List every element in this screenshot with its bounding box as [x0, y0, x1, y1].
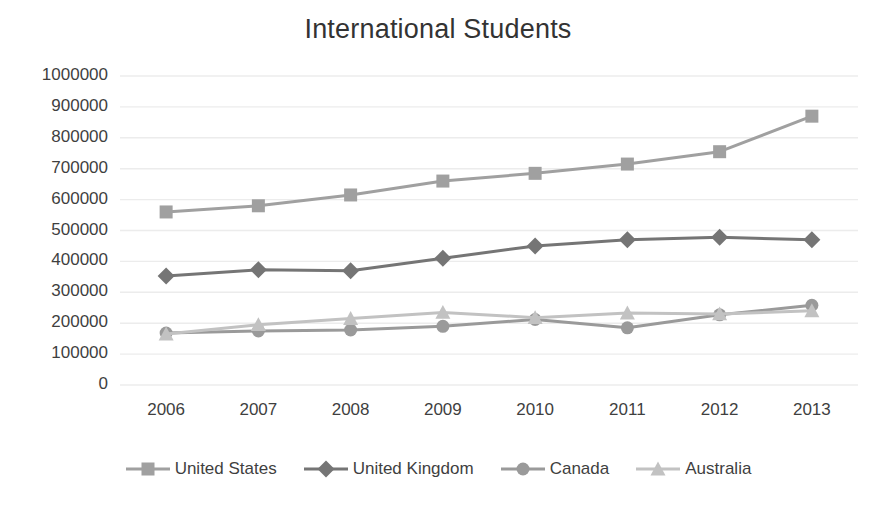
y-axis-tick-label: 0 [99, 374, 108, 394]
data-point-marker [252, 199, 265, 212]
data-point-marker [160, 205, 173, 218]
x-axis-tick-label: 2007 [213, 400, 303, 420]
y-axis-tick-label: 100000 [51, 343, 108, 363]
plot-area: 0100000200000300000400000500000600000700… [0, 0, 876, 430]
series-united-states [160, 110, 819, 219]
gridlines [120, 76, 858, 385]
x-axis-tick-label: 2010 [490, 400, 580, 420]
series-line [166, 116, 812, 212]
y-axis-tick-label: 1000000 [42, 65, 108, 85]
series-united-kingdom [158, 229, 821, 285]
x-axis-tick-label: 2013 [767, 400, 857, 420]
legend-label: United Kingdom [353, 459, 474, 479]
square-marker-icon [125, 458, 171, 480]
y-axis-tick-label: 700000 [51, 158, 108, 178]
chart-container: International Students 01000002000003000… [0, 0, 876, 511]
legend-item-united-states[interactable]: United States [125, 458, 277, 480]
chart-legend: United StatesUnited KingdomCanadaAustral… [0, 458, 876, 480]
circle-marker-icon [500, 458, 546, 480]
data-point-marker [250, 261, 267, 278]
data-point-marker [436, 175, 449, 188]
y-axis-tick-label: 400000 [51, 250, 108, 270]
legend-item-australia[interactable]: Australia [635, 458, 751, 480]
y-axis-tick-label: 200000 [51, 312, 108, 332]
x-axis-tick-label: 2011 [582, 400, 672, 420]
data-point-marker [434, 250, 451, 267]
plot-svg [0, 0, 876, 430]
y-axis-tick-label: 900000 [51, 96, 108, 116]
data-point-marker [619, 231, 636, 248]
x-axis-tick-label: 2008 [306, 400, 396, 420]
y-axis-tick-label: 500000 [51, 220, 108, 240]
legend-label: United States [175, 459, 277, 479]
data-point-marker [344, 188, 357, 201]
data-point-marker [342, 262, 359, 279]
legend-item-canada[interactable]: Canada [500, 458, 610, 480]
y-axis-tick-label: 600000 [51, 189, 108, 209]
y-axis-tick-label: 800000 [51, 127, 108, 147]
x-axis-tick-label: 2012 [675, 400, 765, 420]
diamond-marker-icon [303, 458, 349, 480]
triangle-marker-icon [635, 458, 681, 480]
data-point-marker [158, 267, 175, 284]
legend-label: Canada [550, 459, 610, 479]
x-axis-tick-label: 2009 [398, 400, 488, 420]
data-point-marker [621, 321, 634, 334]
data-point-marker [805, 110, 818, 123]
data-point-marker [436, 320, 449, 333]
data-point-marker [711, 229, 728, 246]
series-layer [158, 110, 821, 341]
legend-label: Australia [685, 459, 751, 479]
data-point-marker [621, 158, 634, 171]
legend-item-united-kingdom[interactable]: United Kingdom [303, 458, 474, 480]
data-point-marker [529, 167, 542, 180]
x-axis-tick-label: 2006 [121, 400, 211, 420]
data-point-marker [713, 145, 726, 158]
data-point-marker [344, 323, 357, 336]
data-point-marker [527, 237, 544, 254]
data-point-marker [803, 231, 820, 248]
y-axis-tick-label: 300000 [51, 281, 108, 301]
